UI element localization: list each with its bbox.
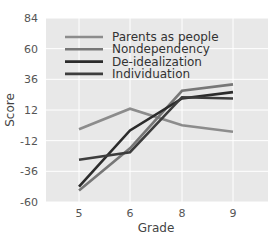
y-tick-label: 84 <box>24 12 38 25</box>
legend-label: Individuation <box>112 67 190 81</box>
x-axis-ticks: 5689 <box>76 207 237 220</box>
y-axis-ticks: 84603612-12-36-60 <box>20 12 38 209</box>
line-chart: 84603612-12-36-60 5689 Parents as people… <box>0 0 272 238</box>
y-tick-label: -12 <box>20 135 38 148</box>
x-axis-label: Grade <box>138 221 175 235</box>
x-tick-label: 8 <box>179 207 186 220</box>
y-tick-label: 12 <box>24 104 38 117</box>
x-tick-label: 5 <box>76 207 83 220</box>
y-tick-label: 36 <box>24 73 38 86</box>
x-tick-label: 9 <box>230 207 237 220</box>
y-tick-label: -60 <box>20 196 38 209</box>
y-tick-label: -36 <box>20 165 38 178</box>
y-axis-label: Score <box>3 93 17 127</box>
x-tick-label: 6 <box>127 207 134 220</box>
y-tick-label: 60 <box>24 43 38 56</box>
